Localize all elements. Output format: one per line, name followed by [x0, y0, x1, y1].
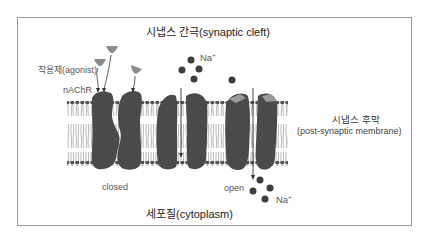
agonist-label: 작용제(agonist) — [38, 63, 97, 76]
agonist-arrow — [97, 68, 98, 90]
channel-subunit-left — [157, 95, 178, 170]
cytoplasm-label: 세포질(cytoplasm) — [146, 205, 233, 221]
membrane-label-en: (post-synaptic membrane) — [297, 126, 402, 136]
open-state-label: open — [224, 183, 244, 193]
receptor-subunit-left — [225, 94, 250, 170]
agonist-icon — [131, 65, 142, 74]
nachr-label: nAChR — [63, 85, 92, 95]
agonist-icon — [106, 46, 118, 53]
receptor-subunit-right — [256, 94, 278, 170]
sodium-label-bottom: Na+ — [276, 194, 292, 205]
arrow-head — [251, 175, 255, 180]
channel-subunit-right — [186, 93, 207, 169]
agonist-molecules — [94, 46, 142, 93]
synaptic-cleft-label: 시냅스 간극(synaptic cleft) — [146, 23, 270, 39]
receptor-subunit-right — [117, 91, 142, 170]
sodium-ions-intracellular — [250, 177, 274, 203]
closed-state-label: closed — [102, 182, 128, 192]
agonist-arrow — [133, 76, 135, 90]
sodium-label-top: Na+ — [200, 52, 216, 63]
membrane-label-ko: 시냅스 후막 — [332, 112, 380, 126]
